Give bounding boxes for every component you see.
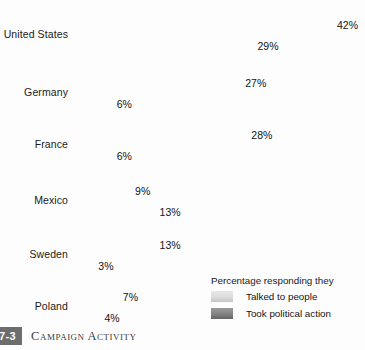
bar-group: France28%6% xyxy=(0,124,365,166)
category-label: Mexico xyxy=(0,194,68,206)
legend-label-talked-to-people: Talked to people xyxy=(246,291,317,302)
bar-row xyxy=(73,201,153,222)
legend-swatch-talked-to-people xyxy=(211,291,233,302)
bar-group: Sweden13%3% xyxy=(0,234,365,276)
bar-value-label: 9% xyxy=(135,184,150,196)
bar-group: Mexico9%13% xyxy=(0,180,365,222)
bar-row xyxy=(73,14,330,35)
bar-value-label: 13% xyxy=(160,205,181,217)
bar-row xyxy=(73,35,250,56)
bar-value-label: 27% xyxy=(245,76,266,88)
bar-row xyxy=(73,124,244,145)
bar-value-label: 6% xyxy=(117,97,132,109)
category-label: Poland xyxy=(0,300,68,312)
category-label: France xyxy=(0,138,68,150)
bar-row xyxy=(73,72,238,93)
legend-item-took-political-action: Took political action xyxy=(211,308,363,319)
figure-caption: 7-3 Campaign Activity xyxy=(0,326,365,346)
bar-group: United States42%29% xyxy=(0,14,365,56)
bar-row xyxy=(73,234,153,255)
legend-label-took-political-action: Took political action xyxy=(246,308,331,319)
bar-value-label: 42% xyxy=(337,18,358,30)
bar-row xyxy=(73,93,110,114)
bar-value-label: 6% xyxy=(117,149,132,161)
category-label: Germany xyxy=(0,86,68,98)
bar-row xyxy=(73,307,97,328)
bar-chart-plot-area: United States42%29%Germany27%6%France28%… xyxy=(0,0,365,322)
figure-caption-text: Campaign Activity xyxy=(31,329,136,344)
bar-value-label: 4% xyxy=(104,311,119,323)
bar-value-label: 3% xyxy=(98,259,113,271)
bar-value-label: 7% xyxy=(123,290,138,302)
bar-row xyxy=(73,255,91,276)
category-label: United States xyxy=(0,28,68,40)
bar-row xyxy=(73,145,110,166)
legend-title: Percentage responding they xyxy=(211,275,363,286)
legend-item-talked-to-people: Talked to people xyxy=(211,291,363,302)
chart-legend: Percentage responding they Talked to peo… xyxy=(211,275,363,325)
bar-group: Germany27%6% xyxy=(0,72,365,114)
category-label: Sweden xyxy=(0,248,68,260)
bar-value-label: 28% xyxy=(251,128,272,140)
bar-value-label: 13% xyxy=(160,238,181,250)
bar-row xyxy=(73,286,116,307)
figure-number-badge: 7-3 xyxy=(0,327,22,345)
legend-swatch-took-political-action xyxy=(211,308,233,319)
bar-row xyxy=(73,180,128,201)
bar-value-label: 29% xyxy=(257,39,278,51)
figure-campaign-activity: United States42%29%Germany27%6%France28%… xyxy=(0,0,365,350)
